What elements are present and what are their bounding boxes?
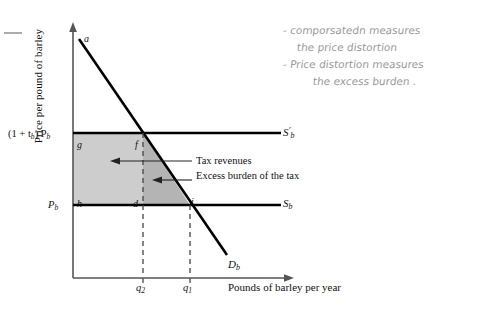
x-axis-title: Pounds of barley per year — [228, 281, 341, 293]
handwritten-note-line-1: - comporsatedn measures — [282, 22, 499, 39]
y-axis-arrowhead — [69, 22, 77, 32]
supply-taxed-base: S — [283, 126, 289, 138]
y-label-net-price: Pb — [48, 199, 58, 210]
point-label-f: f — [135, 139, 138, 150]
x-tick-label-q2: q2 — [136, 282, 145, 293]
curve-label-demand: Db — [228, 258, 240, 270]
supply-sub: b — [289, 202, 293, 211]
curve-label-supply: Sb — [283, 197, 292, 209]
demand-base: D — [228, 258, 236, 270]
gross-price-prefix: (1 + t — [8, 128, 31, 139]
gross-price-sub-2: b — [47, 132, 51, 141]
net-price-sub: b — [54, 203, 58, 212]
figure-page: Price per pound of barley Pounds of barl… — [0, 0, 502, 309]
handwritten-note-line-4: the excess burden . — [282, 73, 499, 90]
handwritten-notes: - comporsatedn measures the price distor… — [283, 22, 498, 90]
point-label-g: g — [77, 139, 82, 150]
demand-sub: b — [236, 263, 240, 272]
point-label-i: i — [191, 196, 194, 207]
supply-taxed-sub: b — [290, 131, 294, 140]
point-label-a: a — [84, 33, 89, 44]
curve-label-supply-with-tax: S′b — [283, 126, 294, 138]
annotation-tax-revenues: Tax revenues — [196, 155, 252, 166]
q1-sub: 1 — [188, 286, 192, 295]
gross-price-sub-1: b — [31, 132, 35, 141]
x-tick-label-q1: q1 — [183, 282, 192, 293]
gross-price-mid: ) P — [35, 128, 47, 139]
handwritten-note-line-2: the price distortion — [282, 39, 499, 56]
y-label-gross-price: (1 + tb) Pb — [8, 128, 50, 139]
point-label-d: d — [133, 198, 138, 209]
tax-revenue-region — [73, 133, 143, 205]
q2-sub: 2 — [141, 286, 145, 295]
handwritten-note-line-3: - Price distortion measures — [282, 56, 499, 73]
y-axis-title: Price per pound of barley — [32, 6, 44, 166]
supply-base: S — [283, 197, 289, 209]
annotation-excess-burden: Excess burden of the tax — [196, 170, 299, 181]
point-label-h: h — [77, 198, 82, 209]
